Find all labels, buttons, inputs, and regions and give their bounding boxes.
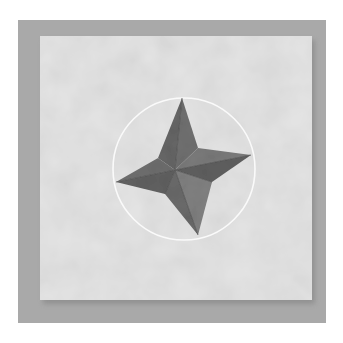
quilt-block-photo [0,0,343,343]
